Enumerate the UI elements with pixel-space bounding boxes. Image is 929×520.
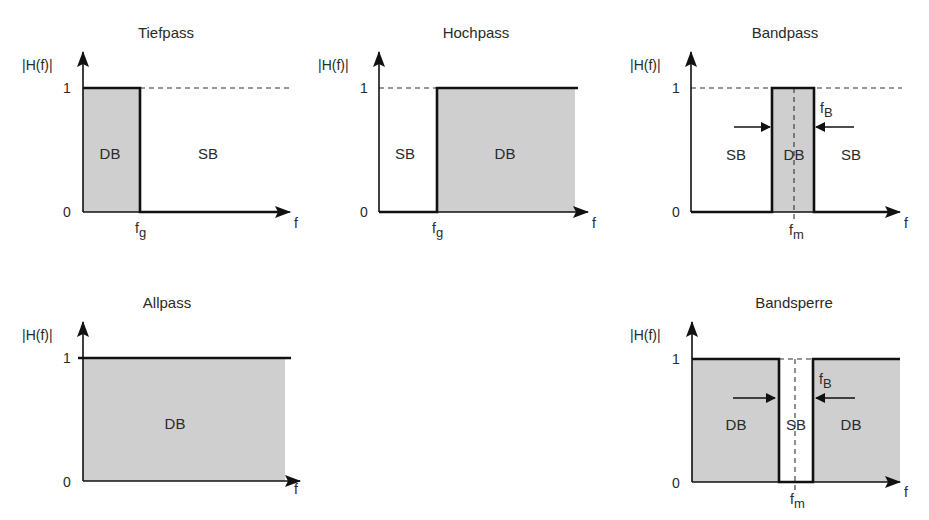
x-axis-label: f [294, 215, 298, 231]
region-label-db: DB [165, 415, 186, 432]
filter-types-diagram: Tiefpass |H(f)| 1 0 f DB SB fg Hochpass … [0, 0, 929, 520]
tick-one: 1 [360, 80, 368, 96]
tick-zero: 0 [63, 204, 71, 220]
panel-title: Tiefpass [138, 24, 194, 41]
y-axis-label: |H(f)| [630, 57, 661, 73]
panel-title: Allpass [143, 294, 191, 311]
x-axis-label: f [904, 484, 908, 500]
tick-zero: 0 [672, 475, 680, 491]
bandwidth-label: fB [820, 100, 833, 120]
region-label-sb-right: SB [841, 146, 861, 163]
tick-one: 1 [672, 80, 680, 96]
region-label-sb: SB [395, 145, 415, 162]
tick-one: 1 [672, 351, 680, 367]
y-axis-label: |H(f)| [22, 327, 53, 343]
tick-one: 1 [63, 80, 71, 96]
x-axis-label: f [592, 215, 596, 231]
y-axis-label: |H(f)| [630, 327, 661, 343]
region-label-db: DB [100, 145, 121, 162]
panel-title: Hochpass [443, 24, 510, 41]
region-label-sb: SB [786, 416, 806, 433]
tick-zero: 0 [672, 204, 680, 220]
center-frequency-label: fm [789, 222, 804, 242]
panel-allpass: Allpass |H(f)| 1 0 f DB [22, 294, 300, 497]
panel-bandpass: Bandpass |H(f)| 1 0 f SB DB SB fB fm [630, 24, 908, 242]
cutoff-frequency-label: fg [135, 220, 146, 240]
panel-title: Bandsperre [755, 294, 833, 311]
panel-tiefpass: Tiefpass |H(f)| 1 0 f DB SB fg [22, 24, 298, 240]
region-label-db: DB [495, 145, 516, 162]
region-label-sb: SB [198, 145, 218, 162]
y-axis-label: |H(f)| [22, 57, 53, 73]
panel-hochpass: Hochpass |H(f)| 1 0 f SB DB fg [318, 24, 596, 240]
panel-title: Bandpass [752, 24, 819, 41]
tick-one: 1 [63, 350, 71, 366]
region-label-db-left: DB [726, 416, 747, 433]
panel-bandsperre: Bandsperre |H(f)| 1 0 f DB SB DB fB fm [630, 294, 908, 511]
x-axis-label: f [294, 481, 298, 497]
region-label-db-right: DB [841, 416, 862, 433]
x-axis-label: f [904, 215, 908, 231]
cutoff-frequency-label: fg [432, 220, 443, 240]
y-axis-label: |H(f)| [318, 57, 349, 73]
center-frequency-label: fm [790, 491, 805, 511]
tick-zero: 0 [360, 204, 368, 220]
region-label-db: DB [784, 146, 805, 163]
region-label-sb-left: SB [726, 146, 746, 163]
tick-zero: 0 [63, 474, 71, 490]
